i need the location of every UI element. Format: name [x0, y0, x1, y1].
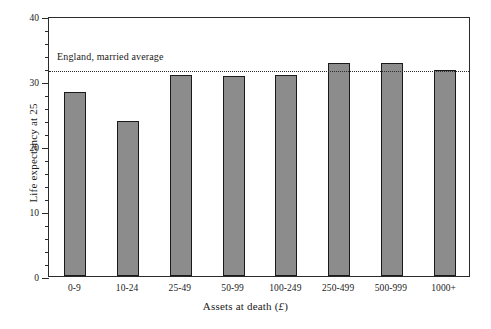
y-axis-tick-major — [42, 83, 49, 84]
y-axis-tick-major — [42, 213, 49, 214]
y-axis-tick-major — [42, 148, 49, 149]
bar — [275, 75, 297, 276]
chart-figure: Life expectancy at 25 010203040 England,… — [0, 0, 491, 329]
bar — [434, 70, 456, 276]
y-axis-tick-minor — [45, 31, 49, 32]
y-axis-tick-minor — [45, 135, 49, 136]
y-axis-tick-minor — [45, 44, 49, 45]
bar — [223, 76, 245, 276]
bar — [170, 75, 192, 277]
y-axis-tick-label: 20 — [30, 143, 40, 153]
x-axis-tick-label: 500-999 — [375, 283, 407, 293]
y-axis-tick-minor — [45, 57, 49, 58]
y-axis-tick-minor — [45, 187, 49, 188]
bar — [64, 92, 86, 276]
y-axis-tick-minor — [45, 122, 49, 123]
y-axis-tick-minor — [45, 265, 49, 266]
y-axis-tick-label: 10 — [30, 208, 40, 218]
x-axis-tick-label: 0-9 — [68, 283, 81, 293]
y-axis-tick-label: 40 — [30, 13, 40, 23]
bar — [381, 63, 403, 276]
y-axis-tick-major — [42, 278, 49, 279]
y-axis-tick-label: 30 — [30, 78, 40, 88]
x-axis-title: Assets at death (£) — [0, 300, 491, 312]
x-axis-tick-label: 10-24 — [116, 283, 139, 293]
y-axis-tick-minor — [45, 226, 49, 227]
y-axis-tick-minor — [45, 239, 49, 240]
reference-line-label: England, married average — [57, 51, 164, 62]
x-axis-tick-label: 50-99 — [221, 283, 244, 293]
y-axis-tick-minor — [45, 109, 49, 110]
x-axis-tick-label: 25-49 — [169, 283, 192, 293]
x-axis-tick-label: 100-249 — [269, 283, 301, 293]
x-axis-tick-label: 250-499 — [322, 283, 354, 293]
y-axis-tick-major — [42, 18, 49, 19]
y-axis-tick-minor — [45, 252, 49, 253]
y-axis-tick-minor — [45, 174, 49, 175]
y-axis-tick-label: 0 — [34, 273, 39, 283]
x-axis-tick-label: 1000+ — [431, 283, 456, 293]
y-axis-tick-minor — [45, 200, 49, 201]
plot-area: 010203040 England, married average — [48, 17, 470, 277]
y-axis-tick-minor — [45, 96, 49, 97]
bar — [328, 63, 350, 276]
bar — [117, 121, 139, 276]
y-axis-tick-minor — [45, 161, 49, 162]
currency-symbol: £ — [279, 300, 285, 312]
reference-line-england-married-average — [49, 71, 469, 72]
